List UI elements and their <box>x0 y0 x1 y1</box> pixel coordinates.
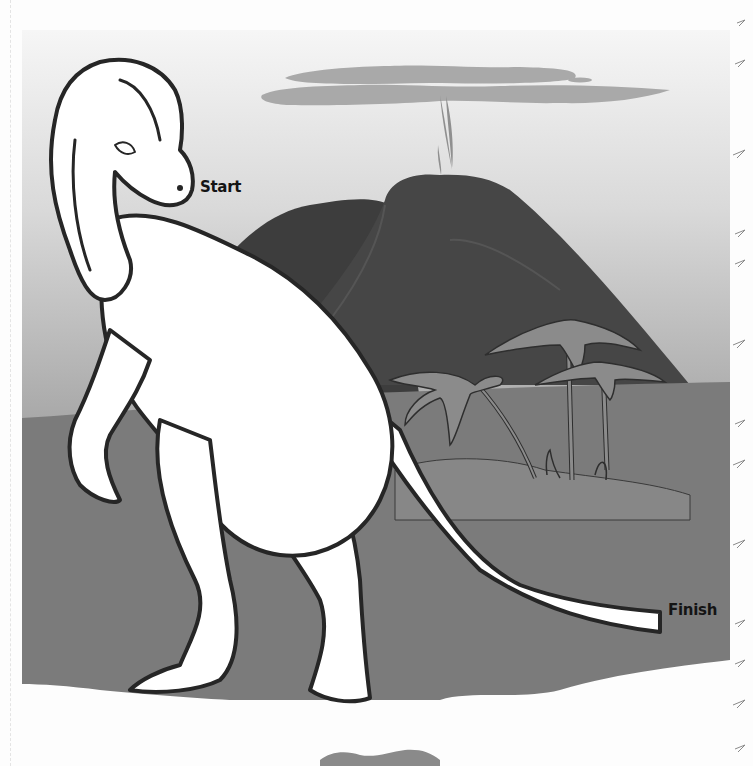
finish-label: Finish <box>668 601 717 619</box>
maze-illustration <box>0 0 753 766</box>
lizard-icon <box>320 750 440 766</box>
worksheet-page: Start Finish <box>0 0 753 766</box>
fern-border <box>733 20 745 752</box>
scene-panel <box>22 30 730 701</box>
start-label: Start <box>200 178 241 196</box>
